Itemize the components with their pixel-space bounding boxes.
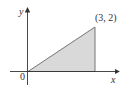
y-axis-label: y <box>18 6 24 17</box>
shaded-region <box>28 27 95 72</box>
origin-label: 0 <box>20 71 25 82</box>
point-label: (3, 2) <box>95 12 117 24</box>
x-axis-label: x <box>110 74 116 85</box>
triangle-diagram: y x 0 (3, 2) <box>0 0 124 90</box>
